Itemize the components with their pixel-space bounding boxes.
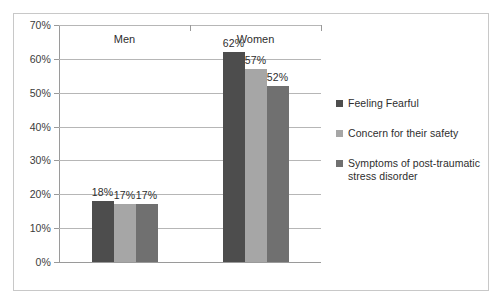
y-axis-tick: [54, 228, 59, 229]
bar-value-label: 17%: [114, 189, 135, 201]
y-axis-tick: [54, 93, 59, 94]
legend-item[interactable]: Concern for their safety: [336, 127, 486, 140]
bar-value-label: 57%: [245, 54, 266, 66]
legend-swatch-icon: [336, 160, 343, 167]
legend-item-label: Feeling Fearful: [348, 97, 419, 110]
x-axis-separator: [321, 25, 322, 31]
chart-container: 0%10%20%30%40%50%60%70% 18%17%17%62%57%5…: [13, 13, 489, 291]
bar: [267, 86, 289, 262]
bar-value-label: 52%: [267, 71, 288, 83]
legend-swatch-icon: [336, 130, 343, 137]
plot-area: 0%10%20%30%40%50%60%70% 18%17%17%62%57%5…: [59, 25, 321, 262]
legend-swatch-icon: [336, 100, 343, 107]
y-axis-tick-label: 50%: [30, 87, 51, 99]
y-axis-tick-label: 10%: [30, 222, 51, 234]
legend-item[interactable]: Symptoms of post-traumatic stress disord…: [336, 157, 486, 183]
bar: [114, 204, 136, 262]
y-axis-tick: [54, 25, 59, 26]
legend-item-label: Concern for their safety: [348, 127, 458, 140]
gridline: [59, 59, 321, 60]
x-axis-category-label: Women: [237, 33, 275, 45]
y-axis-tick: [54, 262, 59, 263]
y-axis-tick: [54, 127, 59, 128]
y-axis-tick: [54, 59, 59, 60]
gridline: [59, 262, 321, 263]
y-axis-line: [59, 25, 60, 262]
bar: [223, 52, 245, 262]
bar: [92, 201, 114, 262]
legend-item[interactable]: Feeling Fearful: [336, 97, 486, 110]
bar-value-label: 17%: [136, 189, 157, 201]
bar: [245, 69, 267, 262]
legend-item-label: Symptoms of post-traumatic stress disord…: [348, 157, 486, 183]
y-axis-tick-label: 0%: [36, 256, 51, 268]
bar-value-label: 18%: [92, 186, 113, 198]
x-axis-category-label: Men: [114, 33, 135, 45]
y-axis-tick-label: 40%: [30, 121, 51, 133]
y-axis-tick-label: 70%: [30, 19, 51, 31]
y-axis-tick-label: 20%: [30, 188, 51, 200]
bar: [136, 204, 158, 262]
y-axis-tick-label: 60%: [30, 53, 51, 65]
y-axis-tick-label: 30%: [30, 154, 51, 166]
x-axis-separator: [190, 25, 191, 31]
chart-legend: Feeling FearfulConcern for their safetyS…: [336, 97, 486, 200]
y-axis-tick: [54, 194, 59, 195]
y-axis-tick: [54, 160, 59, 161]
